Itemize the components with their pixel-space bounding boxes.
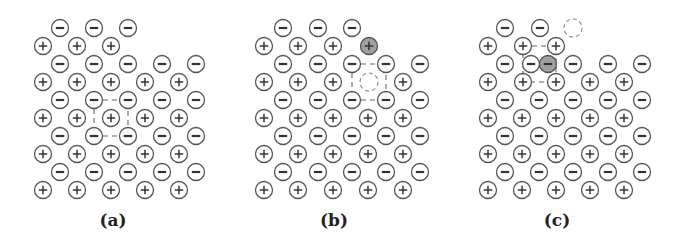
anion-ion <box>600 164 617 181</box>
cation-ion <box>480 74 497 91</box>
anion-ion <box>634 92 651 109</box>
cation-ion <box>290 146 307 163</box>
anion-ion <box>86 56 103 73</box>
cation-ion <box>290 74 307 91</box>
anion-ion <box>52 164 69 181</box>
cation-ion <box>480 182 497 199</box>
anion-ion <box>310 164 327 181</box>
cation-ion <box>137 110 154 127</box>
anion-ion <box>188 56 205 73</box>
cation-ion <box>395 110 412 127</box>
anion-ion <box>52 20 69 37</box>
cation-ion <box>171 182 188 199</box>
anion-ion <box>532 20 549 37</box>
cation-ion <box>256 74 273 91</box>
cation-ion <box>360 146 377 163</box>
cation-ion <box>35 110 52 127</box>
anion-ion <box>310 128 327 145</box>
cation-ion <box>514 146 531 163</box>
anion-ion <box>378 164 395 181</box>
anion-ion <box>344 56 361 73</box>
anion-ion <box>497 56 514 73</box>
cation-ion <box>360 182 377 199</box>
cation-ion <box>69 146 86 163</box>
anion-ion <box>86 128 103 145</box>
anion-ion <box>188 128 205 145</box>
anion-ion <box>52 56 69 73</box>
cation-ion <box>35 182 52 199</box>
anion-ion <box>120 128 137 145</box>
anion-ion <box>540 56 557 73</box>
cation-ion <box>325 110 342 127</box>
anion-ion <box>86 20 103 37</box>
anion-ion <box>531 164 548 181</box>
anion-ion <box>86 164 103 181</box>
cation-ion <box>256 110 273 127</box>
cation-ion <box>103 146 120 163</box>
anion-ion <box>86 92 103 109</box>
cation-ion <box>514 182 531 199</box>
panel-b-lattice <box>256 20 429 199</box>
cation-ion <box>103 38 120 55</box>
cation-ion <box>514 110 531 127</box>
cation-ion <box>137 182 154 199</box>
anion-ion <box>52 128 69 145</box>
anion-ion <box>497 20 514 37</box>
cation-ion <box>137 74 154 91</box>
vacancy-site <box>564 19 582 37</box>
anion-ion <box>600 56 617 73</box>
anion-ion <box>310 92 327 109</box>
cation-ion <box>582 182 599 199</box>
anion-ion <box>344 128 361 145</box>
anion-ion <box>497 128 514 145</box>
cation-ion <box>395 74 412 91</box>
cation-ion <box>103 182 120 199</box>
cation-ion <box>480 146 497 163</box>
anion-ion <box>378 92 395 109</box>
cation-ion <box>582 110 599 127</box>
cation-ion <box>360 110 377 127</box>
anion-ion <box>634 56 651 73</box>
cation-ion <box>69 110 86 127</box>
anion-ion <box>310 56 327 73</box>
anion-ion <box>412 92 429 109</box>
cation-ion <box>515 38 532 55</box>
cation-ion <box>548 182 565 199</box>
cation-ion <box>395 146 412 163</box>
cation-ion <box>256 182 273 199</box>
cation-ion <box>256 38 273 55</box>
panel-c-lattice <box>480 19 651 199</box>
anion-ion <box>120 92 137 109</box>
anion-ion <box>412 128 429 145</box>
cation-ion <box>69 74 86 91</box>
cation-ion <box>480 38 497 55</box>
cation-ion <box>395 182 412 199</box>
anion-ion <box>634 128 651 145</box>
cation-ion <box>69 182 86 199</box>
cation-ion <box>515 74 532 91</box>
anion-ion <box>275 164 292 181</box>
anion-ion <box>531 92 548 109</box>
cation-ion <box>548 38 565 55</box>
anion-ion <box>600 92 617 109</box>
cation-ion <box>582 146 599 163</box>
cation-ion <box>171 146 188 163</box>
cation-ion <box>325 146 342 163</box>
cation-ion <box>548 74 565 91</box>
anion-ion <box>310 20 327 37</box>
cation-ion <box>256 146 273 163</box>
anion-ion <box>600 128 617 145</box>
cation-ion <box>290 110 307 127</box>
cation-ion <box>361 38 378 55</box>
cation-ion <box>616 182 633 199</box>
anion-ion <box>565 92 582 109</box>
anion-ion <box>378 128 395 145</box>
anion-ion <box>344 164 361 181</box>
vacancy-site <box>360 73 378 91</box>
anion-ion <box>634 164 651 181</box>
anion-ion <box>497 92 514 109</box>
cation-ion <box>582 74 599 91</box>
anion-ion <box>275 20 292 37</box>
cation-ion <box>69 38 86 55</box>
anion-ion <box>412 56 429 73</box>
